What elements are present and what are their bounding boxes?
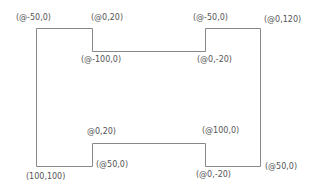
label-top-notch-right-bottom: (@0,-20) bbox=[197, 56, 232, 64]
label-bottom-notch-right-bottom: (@0,-20) bbox=[196, 171, 231, 179]
label-start: (@-50,0) bbox=[16, 14, 51, 22]
label-top-notch-left: (@0,20) bbox=[91, 14, 123, 22]
label-bottom-left-inner: (@50,0) bbox=[96, 161, 128, 169]
label-bottom-notch-top: (@100,0) bbox=[202, 127, 239, 135]
shape-outline bbox=[37, 29, 261, 167]
label-top-notch-bottom: (@-100,0) bbox=[81, 56, 121, 64]
label-bottom-notch-left: @0,20) bbox=[87, 128, 116, 136]
label-bottom-right: (@50,0) bbox=[265, 163, 297, 171]
diagram-canvas: (@-50,0) (@0,20) (@-100,0) (@0,-20) (@-5… bbox=[0, 0, 316, 190]
label-bottom-left: (100,100) bbox=[26, 173, 65, 181]
label-top-right: (@0,120) bbox=[264, 16, 301, 24]
label-top-notch-right: (@-50,0) bbox=[193, 14, 228, 22]
